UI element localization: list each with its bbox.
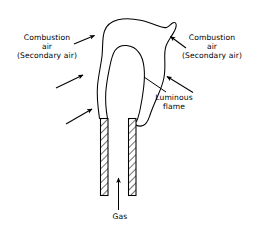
label-combustion-air-left-line1: Combustion xyxy=(6,33,88,42)
label-combustion-air-left-line2: air xyxy=(6,42,88,51)
burner-tube-right xyxy=(129,119,137,196)
label-gas-line1: Gas xyxy=(105,212,135,221)
label-combustion-air-right: Combustion air (Secondary air) xyxy=(171,33,253,61)
label-luminous-flame-line1: Luminous xyxy=(146,93,202,102)
label-gas: Gas xyxy=(105,212,135,221)
label-combustion-air-right-line3: (Secondary air) xyxy=(171,51,253,60)
burner-tube-left xyxy=(101,119,109,196)
label-combustion-air-left: Combustion air (Secondary air) xyxy=(6,33,88,61)
label-combustion-air-left-line3: (Secondary air) xyxy=(6,51,88,60)
label-combustion-air-right-line1: Combustion xyxy=(171,33,253,42)
burner-flame-diagram: Combustion air (Secondary air) Combustio… xyxy=(0,0,255,235)
label-luminous-flame-line2: flame xyxy=(146,102,202,111)
label-combustion-air-right-line2: air xyxy=(171,42,253,51)
label-luminous-flame: Luminous flame xyxy=(146,93,202,111)
